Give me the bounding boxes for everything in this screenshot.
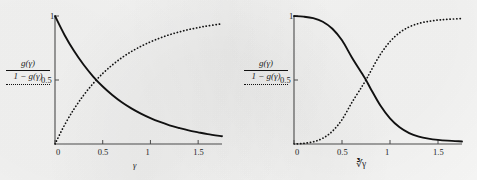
legend-entry-g-left: g(γ) [6,59,50,71]
x-tick-label: 0.5 [98,147,109,157]
chart-panel-right: g(γ) 1 − g(γ) 00.511.5 0.51 ∛γ [238,0,477,180]
legend-entry-g-right: g(γ) [244,59,288,71]
x-tick-label: 1.5 [193,147,204,157]
x-tick-label: 0 [295,147,299,157]
series-line-1-minus-g-left [55,24,222,144]
y-tick-label: 1 [289,11,293,21]
x-tick-label: 1.5 [433,147,444,157]
series-line-g-right [294,16,462,141]
y-ticks-right [294,16,298,80]
x-ticks-left [55,140,198,144]
series-line-1-minus-g-right [294,19,462,144]
legend-label-g-right: g(γ) [244,59,288,68]
x-tick-label: 0 [56,147,60,157]
x-axis-label-left: γ [133,160,136,170]
series-line-g-left [55,16,222,136]
y-ticks-left [55,16,59,80]
chart-panel-left: g(γ) 1 − g(γ) 00.511.5 0.51 γ [0,0,238,180]
x-ticks-right [294,140,438,144]
x-tick-label: 1 [385,147,389,157]
y-tick-label: 1 [50,11,54,21]
y-tick-label: 0.5 [41,75,52,85]
x-tick-label: 0.5 [337,147,348,157]
x-tick-label: 1 [145,147,149,157]
figure-container: g(γ) 1 − g(γ) 00.511.5 0.51 γ g(γ) [0,0,477,180]
legend-label-g-left: g(γ) [6,59,50,68]
x-axis-label-right: ∛γ [356,158,366,169]
y-tick-label: 0.5 [280,75,291,85]
